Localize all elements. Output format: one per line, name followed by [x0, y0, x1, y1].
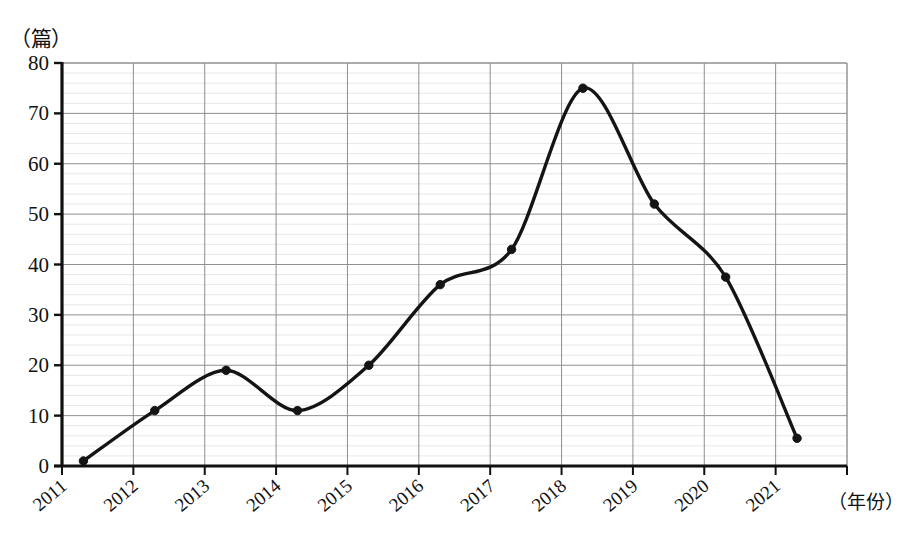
svg-text:2017: 2017 — [456, 475, 499, 516]
svg-text:2011: 2011 — [29, 475, 71, 515]
data-point-2011 — [79, 457, 87, 465]
svg-text:2019: 2019 — [599, 475, 642, 516]
svg-text:2015: 2015 — [313, 475, 356, 516]
svg-text:2012: 2012 — [99, 475, 142, 516]
svg-text:10: 10 — [28, 404, 49, 428]
data-point-2019 — [650, 200, 658, 208]
horizontal-gridlines — [62, 63, 847, 416]
data-point-2013 — [222, 366, 230, 374]
data-point-2016 — [436, 280, 444, 288]
svg-text:2018: 2018 — [528, 475, 571, 516]
data-point-2018 — [579, 84, 587, 92]
svg-text:50: 50 — [28, 202, 49, 226]
y-axis-unit-label: （篇） — [10, 22, 72, 52]
x-axis-tick-labels: 2011201220132014201520162017201820192020… — [29, 475, 785, 516]
data-point-2020 — [721, 273, 729, 281]
svg-text:80: 80 — [28, 51, 49, 75]
svg-text:2021: 2021 — [742, 475, 785, 516]
svg-text:70: 70 — [28, 101, 49, 125]
svg-text:40: 40 — [28, 253, 49, 277]
chart-plot-area: 01020304050607080 2011201220132014201520… — [0, 0, 920, 549]
svg-text:20: 20 — [28, 353, 49, 377]
line-chart: （篇） 01020304050607080 201120122013201420… — [0, 0, 920, 549]
data-point-2017 — [507, 245, 515, 253]
data-point-2021 — [793, 434, 801, 442]
svg-text:2013: 2013 — [171, 475, 214, 516]
svg-text:2016: 2016 — [385, 475, 428, 516]
data-point-2015 — [365, 361, 373, 369]
svg-text:0: 0 — [39, 454, 50, 478]
data-point-2012 — [151, 406, 159, 414]
svg-text:60: 60 — [28, 152, 49, 176]
svg-text:2014: 2014 — [242, 475, 285, 516]
svg-text:2020: 2020 — [670, 475, 713, 516]
y-axis-tick-labels: 01020304050607080 — [28, 51, 49, 478]
x-axis-title: （年份） — [828, 487, 904, 514]
data-point-2014 — [293, 406, 301, 414]
svg-text:30: 30 — [28, 303, 49, 327]
